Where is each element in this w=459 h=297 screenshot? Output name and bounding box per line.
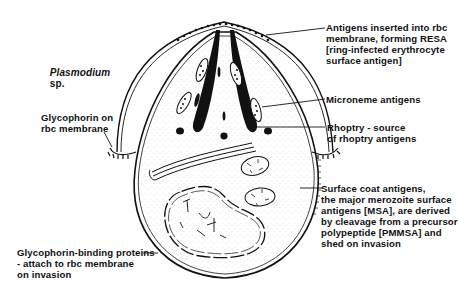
label-glycophorin-on-rbc: Glycophorin on rbc membrane: [41, 112, 113, 134]
label-resa: Antigens inserted into rbc membrane, for…: [326, 22, 447, 66]
label-microneme-antigens: Microneme antigens: [326, 94, 421, 105]
label-rhoptry: Rhoptry - source of rhoptry antigens: [327, 122, 416, 144]
label-glycophorin-binding-proteins: Glycophorin-binding proteins - attach to…: [17, 247, 155, 280]
diagram-title: Plasmodium sp.: [44, 56, 110, 89]
merozoite-body: [134, 32, 318, 278]
glycophorin-junction-left: [108, 148, 136, 159]
label-surface-coat-antigens: Surface coat antigens, the major merozoi…: [321, 183, 458, 249]
diagram-title-species: Plasmodium: [50, 67, 110, 78]
diagram-title-suffix: sp.: [50, 78, 65, 89]
